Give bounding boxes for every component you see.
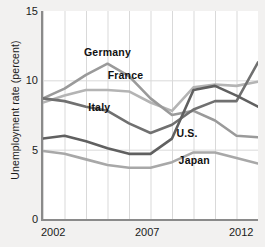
series-label-japan: Japan <box>179 154 210 166</box>
y-tick-15: 15 <box>2 5 38 17</box>
x-tick-2012: 2012 <box>229 226 253 238</box>
series-label-us: U.S. <box>176 127 197 139</box>
series-label-italy: Italy <box>88 101 110 113</box>
y-tick-0: 0 <box>2 213 38 225</box>
gridlines <box>43 11 258 219</box>
x-tick-2007: 2007 <box>135 226 159 238</box>
series-label-germany: Germany <box>84 46 131 58</box>
series-label-france: France <box>108 69 144 81</box>
y-axis-title: Unemployment rate (percent) <box>9 17 21 203</box>
x-tick-2002: 2002 <box>41 226 65 238</box>
unemployment-rate-chart: 15 10 5 0 Unemployment rate (percent) 20… <box>0 0 265 247</box>
plot-svg <box>43 11 258 219</box>
plot-area <box>41 11 258 221</box>
